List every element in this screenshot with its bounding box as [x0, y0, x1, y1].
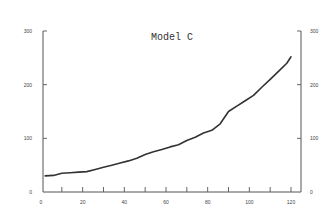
x-tick-label: 100	[245, 199, 254, 205]
y-tick-label-right: 100	[310, 135, 319, 141]
y-tick-label-left: 100	[24, 135, 33, 141]
x-tick-label: 0	[40, 199, 43, 205]
y-tick-label-left: 300	[24, 28, 33, 34]
y-tick-label-right: 200	[310, 82, 319, 88]
axes-frame	[43, 31, 301, 192]
y-tick-label-left: 0	[29, 189, 32, 195]
x-tick-label: 20	[80, 199, 86, 205]
y-tick-label-right: 300	[310, 28, 319, 34]
plot-area	[45, 57, 291, 176]
x-tick-label: 120	[287, 199, 296, 205]
tick-labels: 02040608010012001002003000100200300	[24, 28, 319, 205]
series-line	[45, 57, 291, 176]
x-tick-label: 40	[122, 199, 128, 205]
chart: 02040608010012001002003000100200300 Mode…	[0, 0, 332, 222]
y-tick-label-left: 200	[24, 82, 33, 88]
ticks	[43, 31, 301, 192]
x-tick-label: 80	[205, 199, 211, 205]
y-tick-label-right: 0	[310, 189, 313, 195]
chart-title: Model C	[151, 32, 193, 43]
x-tick-label: 60	[163, 199, 169, 205]
